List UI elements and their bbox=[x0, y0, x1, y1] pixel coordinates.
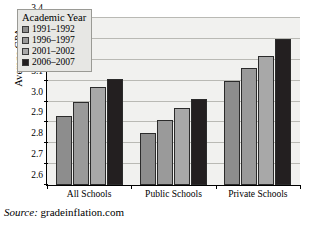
bar[interactable] bbox=[275, 39, 291, 185]
legend-label: 1996–1997 bbox=[32, 35, 75, 46]
legend-entry[interactable]: 1996–1997 bbox=[22, 35, 86, 46]
gpa-bar-chart-figure: Average GPA 3.43.33.23.13.02.92.82.72.6 … bbox=[0, 0, 311, 227]
x-tick-mark bbox=[300, 185, 301, 189]
legend-label: 1991–1992 bbox=[32, 24, 75, 35]
legend-entry[interactable]: 2006–2007 bbox=[22, 57, 86, 68]
legend-swatch-icon bbox=[22, 26, 29, 33]
x-tick-mark bbox=[131, 185, 132, 189]
bar[interactable] bbox=[56, 116, 72, 185]
bar[interactable] bbox=[107, 79, 123, 185]
source-caption: Source: gradeinflation.com bbox=[4, 206, 124, 218]
x-axis-label: Public Schools bbox=[145, 189, 202, 199]
y-tick-label: 2.7 bbox=[31, 149, 43, 159]
x-tick-mark bbox=[47, 185, 48, 189]
legend-swatch-icon bbox=[22, 59, 29, 66]
bar[interactable] bbox=[157, 120, 173, 185]
bar[interactable] bbox=[241, 68, 257, 185]
y-tick-label: 3.0 bbox=[31, 87, 43, 97]
x-axis-label: All Schools bbox=[67, 189, 112, 199]
bar[interactable] bbox=[191, 99, 207, 185]
source-value: gradeinflation.com bbox=[41, 206, 124, 218]
bar[interactable] bbox=[258, 56, 274, 185]
bar-group: Public Schools bbox=[137, 18, 210, 185]
bar[interactable] bbox=[140, 133, 156, 185]
y-tick-label: 2.6 bbox=[31, 170, 43, 180]
source-label: Source: bbox=[4, 206, 38, 218]
bar[interactable] bbox=[224, 81, 240, 185]
y-tick-label: 2.9 bbox=[31, 107, 43, 117]
x-axis-label: Private Schools bbox=[228, 189, 287, 199]
legend-swatch-icon bbox=[22, 48, 29, 55]
legend: Academic Year 1991–19921996–19972001–200… bbox=[17, 9, 92, 72]
y-tick-label: 2.8 bbox=[31, 128, 43, 138]
legend-swatch-icon bbox=[22, 37, 29, 44]
legend-entries: 1991–19921996–19972001–20022006–2007 bbox=[22, 24, 86, 68]
x-tick-mark bbox=[216, 185, 217, 189]
legend-label: 2001–2002 bbox=[32, 46, 75, 57]
legend-title: Academic Year bbox=[22, 12, 86, 23]
bar[interactable] bbox=[73, 102, 89, 186]
bar[interactable] bbox=[174, 108, 190, 185]
bar[interactable] bbox=[90, 87, 106, 185]
bar-group: Private Schools bbox=[221, 18, 294, 185]
legend-entry[interactable]: 2001–2002 bbox=[22, 46, 86, 57]
legend-entry[interactable]: 1991–1992 bbox=[22, 24, 86, 35]
legend-label: 2006–2007 bbox=[32, 57, 75, 68]
